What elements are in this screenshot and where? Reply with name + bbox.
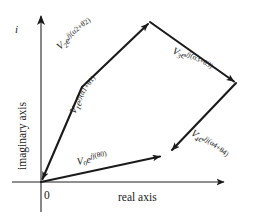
diagram-canvas <box>0 0 272 219</box>
imaginary-axis-label: imaginary axis <box>17 102 29 170</box>
imaginary-unit-label: i <box>15 24 18 35</box>
real-axis-label: real axis <box>118 192 157 204</box>
phasor-diagram: i imaginary axis real axis 0 V2ejj(α2+θ2… <box>0 0 272 219</box>
origin-label: 0 <box>44 190 50 202</box>
vector-label-v0-exp-args: j(θ0) <box>92 149 108 160</box>
axis-lines <box>12 16 224 212</box>
